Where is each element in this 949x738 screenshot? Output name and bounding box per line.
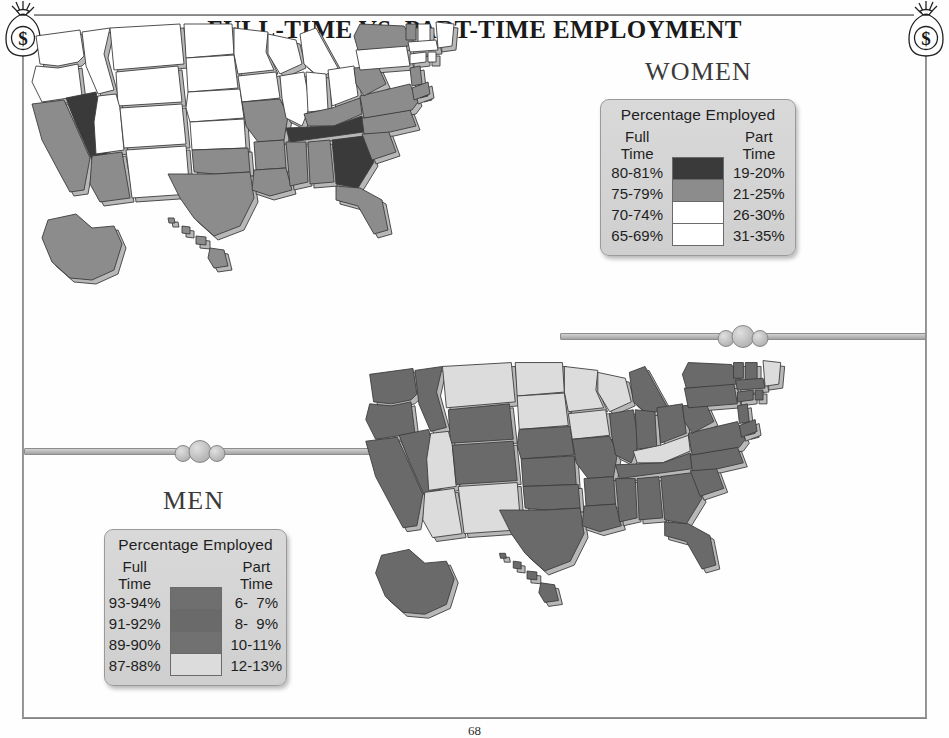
legend-head-full-time: Full Time bbox=[109, 558, 161, 592]
map-state-me[interactable] bbox=[763, 361, 781, 387]
map-state-la[interactable] bbox=[252, 168, 292, 196]
legend-head-part-time: Part Time bbox=[231, 558, 283, 592]
legend-swatch bbox=[171, 588, 221, 610]
map-state-nj[interactable] bbox=[737, 404, 749, 424]
map-state-nh[interactable] bbox=[418, 24, 430, 42]
legend-value-part-time: 31-35% bbox=[733, 225, 785, 246]
legend-swatch-column bbox=[672, 157, 724, 246]
map-state-ri[interactable] bbox=[428, 52, 436, 62]
map-state-ms[interactable] bbox=[616, 479, 638, 522]
legend-swatch-column bbox=[170, 587, 222, 676]
map-state-la[interactable] bbox=[582, 504, 621, 532]
map-state-mt[interactable] bbox=[442, 363, 515, 408]
map-state-ak[interactable] bbox=[42, 214, 122, 280]
section-title-men: MEN bbox=[163, 486, 224, 516]
map-state-ne[interactable] bbox=[517, 426, 574, 458]
legend-swatch bbox=[673, 224, 723, 245]
map-state-ny[interactable] bbox=[354, 24, 414, 50]
map-state-vt[interactable] bbox=[734, 363, 744, 379]
map-state-ms[interactable] bbox=[286, 142, 308, 186]
map-state-sd[interactable] bbox=[517, 393, 568, 429]
map-state-nj[interactable] bbox=[410, 66, 422, 86]
map-state-ma[interactable] bbox=[408, 40, 438, 52]
bead-divider-icon bbox=[24, 440, 376, 462]
map-state-co[interactable] bbox=[452, 441, 517, 484]
map-state-ok[interactable] bbox=[523, 484, 580, 510]
legend-value-full-time: 89-90% bbox=[109, 634, 161, 655]
legend-value-full-time: 91-92% bbox=[109, 613, 161, 634]
map-state-ny[interactable] bbox=[682, 363, 741, 389]
map-state-fl[interactable] bbox=[665, 522, 716, 569]
map-state-ar[interactable] bbox=[254, 140, 286, 170]
legend-swatch bbox=[673, 158, 723, 180]
legend-swatch bbox=[673, 180, 723, 202]
legend-value-full-time: 70-74% bbox=[611, 204, 663, 225]
map-state-wa[interactable] bbox=[370, 368, 417, 403]
map-state-wy[interactable] bbox=[448, 404, 513, 443]
map-state-layer bbox=[32, 22, 454, 280]
map-state-nd[interactable] bbox=[184, 24, 234, 58]
legend-value-full-time: 87-88% bbox=[109, 655, 161, 676]
legend-value-part-time: 19-20% bbox=[733, 162, 785, 183]
map-state-in[interactable] bbox=[306, 72, 328, 112]
section-title-women: WOMEN bbox=[645, 57, 752, 87]
legend-column-part-time: Part Time 6- 7% 8- 9% 10-11% 12-13% bbox=[231, 558, 283, 676]
map-state-wy[interactable] bbox=[116, 66, 182, 106]
legend-women: Percentage Employed Full Time 80-81% 75-… bbox=[600, 99, 796, 256]
map-state-ct[interactable] bbox=[410, 52, 426, 64]
legend-value-part-time: 8- 9% bbox=[231, 613, 279, 634]
map-state-ia[interactable] bbox=[568, 410, 609, 440]
legend-value-full-time: 75-79% bbox=[611, 183, 663, 204]
legend-title: Percentage Employed bbox=[611, 106, 785, 124]
map-state-layer bbox=[366, 361, 781, 615]
legend-value-full-time: 93-94% bbox=[109, 592, 161, 613]
legend-head-full-time: Full Time bbox=[611, 128, 663, 162]
legend-value-full-time: 80-81% bbox=[611, 162, 663, 183]
map-state-ma[interactable] bbox=[736, 378, 766, 390]
map-state-nd[interactable] bbox=[515, 363, 564, 396]
legend-column-full-time: Full Time 93-94% 91-92% 89-90% 87-88% bbox=[109, 558, 161, 676]
page-canvas: $ $ FULL-TIME VS. PART-TIME EMPLOYMENT W… bbox=[0, 0, 949, 738]
legend-column-full-time: Full Time 80-81% 75-79% 70-74% 65-69% bbox=[611, 128, 663, 246]
map-state-mt[interactable] bbox=[110, 24, 184, 70]
map-state-ia[interactable] bbox=[238, 72, 280, 102]
map-state-al[interactable] bbox=[308, 140, 334, 184]
legend-value-part-time: 26-30% bbox=[733, 204, 785, 225]
page-number: 68 bbox=[0, 723, 949, 738]
map-state-vt[interactable] bbox=[406, 24, 416, 40]
legend-value-part-time: 12-13% bbox=[231, 655, 283, 676]
map-state-me[interactable] bbox=[436, 22, 454, 48]
map-state-fl[interactable] bbox=[336, 186, 388, 234]
map-state-ok[interactable] bbox=[192, 148, 250, 174]
map-state-sd[interactable] bbox=[186, 55, 238, 92]
map-state-ks[interactable] bbox=[190, 119, 246, 150]
legend-head-part-time: Part Time bbox=[733, 128, 785, 162]
map-state-ne[interactable] bbox=[186, 89, 244, 122]
map-state-ct[interactable] bbox=[737, 390, 753, 402]
map-men[interactable] bbox=[352, 338, 942, 688]
map-state-ri[interactable] bbox=[755, 390, 763, 400]
legend-value-part-time: 21-25% bbox=[733, 183, 785, 204]
map-state-wa[interactable] bbox=[36, 30, 84, 66]
legend-swatch bbox=[171, 654, 221, 675]
map-state-ar[interactable] bbox=[584, 477, 615, 507]
map-state-ak[interactable] bbox=[376, 549, 455, 614]
map-state-nh[interactable] bbox=[745, 363, 757, 381]
legend-title: Percentage Employed bbox=[115, 536, 276, 554]
legend-value-part-time: 10-11% bbox=[231, 634, 282, 655]
map-state-al[interactable] bbox=[637, 477, 663, 520]
legend-men: Percentage Employed Full Time 93-94% 91-… bbox=[104, 529, 287, 686]
legend-value-part-time: 6- 7% bbox=[231, 592, 279, 613]
legend-swatch bbox=[171, 632, 221, 654]
map-state-co[interactable] bbox=[120, 104, 186, 148]
map-state-in[interactable] bbox=[635, 410, 657, 449]
frame-rule-bottom bbox=[22, 717, 927, 719]
legend-value-full-time: 65-69% bbox=[611, 225, 663, 246]
legend-swatch bbox=[673, 202, 723, 224]
legend-swatch bbox=[171, 610, 221, 632]
map-state-ks[interactable] bbox=[521, 456, 576, 486]
legend-column-part-time: Part Time 19-20% 21-25% 26-30% 31-35% bbox=[733, 128, 785, 246]
map-women[interactable] bbox=[18, 22, 618, 332]
